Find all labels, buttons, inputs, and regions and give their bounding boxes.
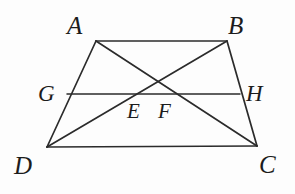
geometry-figure: A B C D G H E F [0, 0, 295, 194]
label-G: G [38, 82, 55, 105]
label-B: B [228, 13, 243, 38]
label-D: D [14, 153, 32, 178]
label-H: H [246, 82, 263, 105]
label-C: C [259, 152, 276, 177]
label-A: A [67, 13, 82, 38]
side-CD-line [47, 146, 257, 147]
label-F: F [158, 101, 171, 122]
label-E: E [127, 101, 140, 122]
